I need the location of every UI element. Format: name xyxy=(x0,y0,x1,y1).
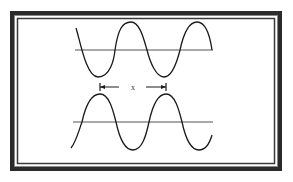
distance-label: x xyxy=(131,83,135,92)
picture-frame xyxy=(12,13,280,169)
diagram-figure: x xyxy=(0,0,293,182)
distance-marker: x xyxy=(100,83,166,92)
